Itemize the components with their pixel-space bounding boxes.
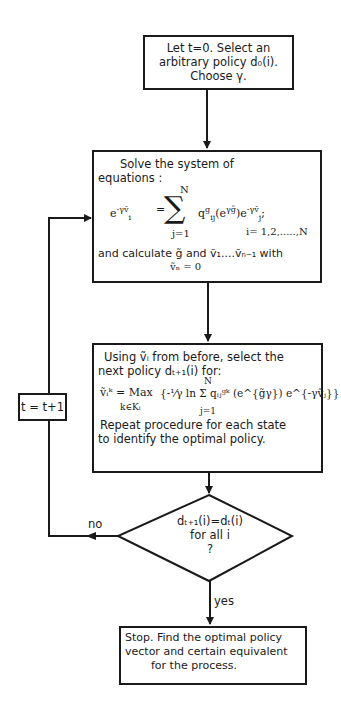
eq-exp-v-sub: j xyxy=(259,213,261,222)
improve-line-1: Using ṽᵢ from before, select the xyxy=(98,350,317,364)
eq-exp-v: -γṽ xyxy=(247,205,259,214)
sum-lower: j=1 xyxy=(172,227,190,241)
start-line-3: Choose γ. xyxy=(145,69,292,83)
formula-body: {-¹⁄γ ln Σ qᵢⱼᵍᵏ (e^{g̃γ}) e^{-γṽⱼ}} xyxy=(160,386,339,400)
bellman-equation: e-γṽi = N ∑ j=1 qgij(eγg̃)e-γṽj; i= 1,2,… xyxy=(98,185,316,247)
solve-condition: ṽₙ = 0 xyxy=(98,261,316,272)
repeat-line-1: Repeat procedure for each state xyxy=(98,418,317,432)
stop-line-3: for the process. xyxy=(125,659,302,673)
eq-q: q xyxy=(198,207,205,220)
start-box: Let t=0. Select an arbitrary policy d₀(i… xyxy=(143,35,294,90)
sigma-icon: ∑ xyxy=(164,193,185,223)
no-label: no xyxy=(88,517,102,531)
solve-equations-box: Solve the system of equations : e-γṽi = … xyxy=(92,150,322,283)
decision-line-2: for all i xyxy=(140,528,280,542)
formula-left: ṽᵢᵏ = Max xyxy=(100,386,153,400)
index-range: i= 1,2,.....,N xyxy=(246,225,308,239)
stop-box: Stop. Find the optimal policy vector and… xyxy=(119,626,307,685)
yes-label: yes xyxy=(214,594,234,608)
eq-lhs-exp: -γṽ xyxy=(117,205,129,214)
increment-box: t = t+1 xyxy=(18,393,67,421)
start-line-2: arbitrary policy d₀(i). xyxy=(145,55,292,69)
formula-under: k∈Kᵢ xyxy=(120,400,141,414)
formula-sum-bottom: j=1 xyxy=(200,404,216,418)
eq-lhs-sub: i xyxy=(129,213,132,222)
solve-tail: and calculate g̃ and ṽ₁....ṽₙ₋₁ with xyxy=(98,247,316,261)
stop-line-1: Stop. Find the optimal policy xyxy=(125,631,302,645)
start-line-1: Let t=0. Select an xyxy=(145,41,292,55)
repeat-line-2: to identify the optimal policy. xyxy=(98,432,317,446)
decision-line-3: ? xyxy=(140,542,280,556)
stop-line-2: vector and certain equivalent xyxy=(125,645,302,659)
convergence-decision: dₜ₊₁(i)=dₜ(i) for all i ? xyxy=(140,514,280,556)
solve-intro-1: Solve the system of xyxy=(98,157,316,171)
policy-improvement-box: Using ṽᵢ from before, select the next po… xyxy=(92,343,323,473)
solve-intro-2: equations : xyxy=(98,171,316,185)
increment-label: t = t+1 xyxy=(21,400,64,414)
eq-exp-open: (e xyxy=(215,207,226,220)
improvement-formula: ṽᵢᵏ = Max k∈Kᵢ N {-¹⁄γ ln Σ qᵢⱼᵍᵏ (e^{g̃… xyxy=(98,378,317,418)
eq-exp-g: γg̃ xyxy=(226,205,236,214)
eq-exp-close: )e xyxy=(236,207,247,220)
decision-line-1: dₜ₊₁(i)=dₜ(i) xyxy=(140,514,280,528)
